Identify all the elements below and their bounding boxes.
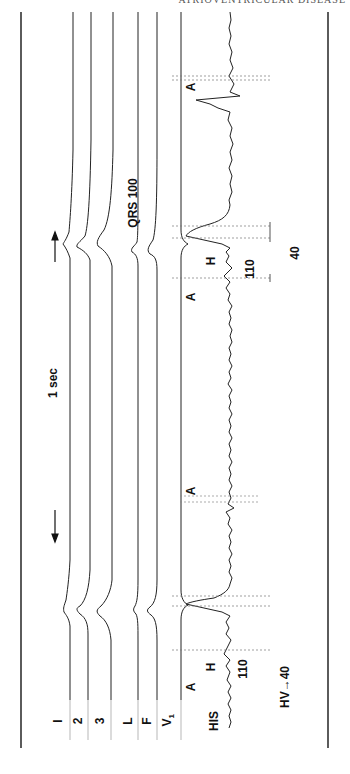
trace-lead-v1 — [181, 12, 188, 700]
beat1-ah-value: 110 — [236, 659, 250, 678]
beat-mid-a-label: A — [184, 487, 198, 496]
beat2-hv-value: 40 — [288, 246, 302, 259]
trace-lead-f — [147, 12, 157, 700]
qrs-text: QRS — [126, 202, 140, 228]
scale-arrow-down-icon — [52, 510, 58, 542]
trace-his — [186, 12, 240, 728]
beat1-a-label: A — [184, 683, 198, 692]
trace-lead-3 — [97, 12, 113, 700]
beat2-h-label: H — [204, 257, 218, 266]
lead-label-l: L — [121, 717, 135, 724]
measurement-lines-mid — [180, 496, 260, 502]
trace-lead-2 — [77, 12, 91, 700]
lead-label-v1-subscript: 1 — [167, 714, 176, 718]
beat1-hv-text: HV — [278, 691, 292, 708]
beat2-a-label: A — [184, 293, 198, 302]
beat1-hv-label: HV→40 — [278, 666, 292, 708]
lead-label-i: I — [51, 719, 65, 722]
scale-arrow-up-icon — [52, 232, 58, 262]
his-label: HIS — [207, 711, 221, 731]
lead-label-3: 3 — [93, 718, 107, 725]
lead-label-v1-main: V — [160, 718, 174, 726]
qrs-label: QRS 100 — [126, 178, 140, 227]
scale-label: 1 sec — [46, 368, 60, 398]
trace-lead-l — [132, 12, 138, 700]
beat1-hv-value: 40 — [278, 666, 292, 679]
lead-label-f: F — [140, 717, 154, 724]
measurement-lines-beat3 — [172, 76, 270, 80]
qrs-value: 100 — [126, 178, 140, 198]
beat3-a-label: A — [184, 83, 198, 92]
beat2-ah-value: 110 — [243, 259, 257, 278]
trace-lead-i — [63, 12, 73, 700]
lead-label-v1: V1 — [160, 714, 176, 726]
lead-label-2: 2 — [71, 718, 85, 725]
beat1-h-label: H — [204, 663, 218, 672]
